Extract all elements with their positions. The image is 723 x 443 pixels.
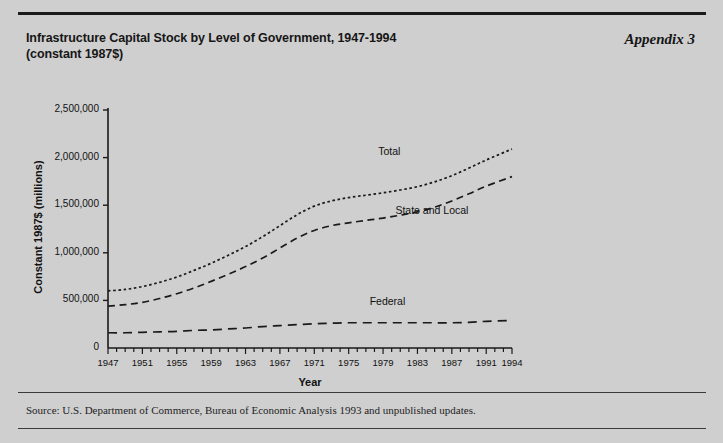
series-line-federal	[108, 320, 512, 332]
bottom-divider-rule-2	[18, 428, 706, 429]
y-axis-tick-label: 1,000,000	[0, 246, 99, 257]
y-axis-tick-label: 2,500,000	[0, 103, 99, 114]
appendix-figure-page: Infrastructure Capital Stock by Level of…	[0, 0, 723, 443]
series-line-state-and-local	[108, 177, 512, 306]
y-axis-tick-label: 2,000,000	[0, 151, 99, 162]
y-axis-tick-label: 1,500,000	[0, 198, 99, 209]
x-axis-tick-label: 1994	[492, 357, 532, 368]
y-axis-tick-label: 0	[0, 341, 99, 352]
bottom-divider-rule	[18, 392, 706, 393]
line-chart: 0500,0001,000,0001,500,0002,000,0002,500…	[0, 0, 723, 443]
y-axis-title: Constant 1987$ (millions)	[32, 127, 44, 327]
y-axis-tick-label: 500,000	[0, 293, 99, 304]
series-annotation-state-and-local: State and Local	[395, 204, 468, 216]
x-axis-title: Year	[250, 376, 370, 388]
source-note: Source: U.S. Department of Commerce, Bur…	[26, 404, 476, 416]
series-line-total	[108, 149, 512, 291]
series-annotation-federal: Federal	[370, 295, 406, 307]
series-annotation-total: Total	[378, 145, 400, 157]
